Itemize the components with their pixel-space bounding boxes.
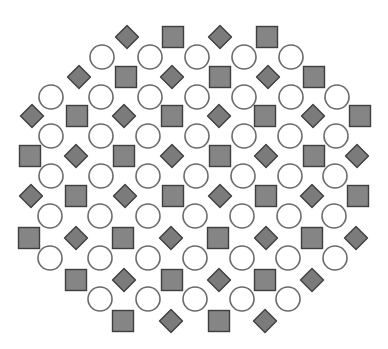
square-shape	[208, 228, 229, 249]
circle-shape	[323, 164, 347, 188]
circle-shape	[279, 45, 303, 69]
square-shape	[66, 186, 87, 207]
circle-shape	[88, 246, 112, 270]
square-shape	[210, 67, 231, 88]
circle-shape	[136, 124, 160, 148]
circle-shape	[136, 164, 160, 188]
circle-shape	[136, 246, 160, 270]
circle-shape	[39, 124, 63, 148]
circle-shape	[277, 204, 301, 228]
square-shape	[302, 228, 323, 249]
circle-shape	[138, 85, 162, 109]
square-shape	[304, 67, 325, 88]
circle-shape	[323, 246, 347, 270]
square-shape	[348, 186, 369, 207]
circle-shape	[90, 45, 114, 69]
circle-shape	[183, 204, 207, 228]
square-shape	[113, 228, 134, 249]
circle-shape	[183, 287, 207, 311]
square-shape	[114, 146, 135, 167]
circle-shape	[230, 204, 254, 228]
circle-shape	[185, 124, 209, 148]
square-shape	[257, 27, 278, 48]
circle-shape	[39, 164, 63, 188]
square-shape	[256, 186, 277, 207]
shape-pattern-diagram	[0, 0, 388, 349]
circle-shape	[89, 124, 113, 148]
square-shape	[210, 146, 231, 167]
circle-shape	[279, 85, 303, 109]
circle-shape	[276, 287, 300, 311]
circle-shape	[278, 164, 302, 188]
circle-shape	[276, 246, 300, 270]
square-shape	[67, 106, 88, 127]
circle-shape	[39, 85, 63, 109]
square-shape	[209, 311, 230, 332]
circle-shape	[185, 85, 209, 109]
circle-shape	[136, 204, 160, 228]
square-shape	[19, 228, 40, 249]
circle-shape	[232, 45, 256, 69]
circle-shape	[38, 204, 62, 228]
square-shape	[66, 270, 87, 291]
circle-shape	[184, 164, 208, 188]
circle-shape	[138, 45, 162, 69]
circle-shape	[88, 204, 112, 228]
circle-shape	[322, 204, 346, 228]
circle-shape	[88, 287, 112, 311]
circle-shape	[278, 124, 302, 148]
circle-shape	[183, 246, 207, 270]
square-shape	[162, 106, 183, 127]
circle-shape	[230, 246, 254, 270]
square-shape	[350, 106, 371, 127]
circle-shape	[89, 164, 113, 188]
circle-shape	[324, 124, 348, 148]
square-shape	[116, 67, 137, 88]
square-shape	[163, 186, 184, 207]
circle-shape	[325, 85, 349, 109]
square-shape	[20, 146, 41, 167]
circle-shape	[185, 45, 209, 69]
circle-shape	[232, 85, 256, 109]
circle-shape	[232, 124, 256, 148]
square-shape	[113, 311, 134, 332]
square-shape	[255, 106, 276, 127]
circle-shape	[231, 164, 255, 188]
square-shape	[255, 270, 276, 291]
square-shape	[162, 270, 183, 291]
circle-shape	[38, 246, 62, 270]
square-shape	[304, 146, 325, 167]
circle-shape	[89, 85, 113, 109]
square-shape	[163, 27, 184, 48]
circle-shape	[136, 287, 160, 311]
circle-shape	[230, 287, 254, 311]
